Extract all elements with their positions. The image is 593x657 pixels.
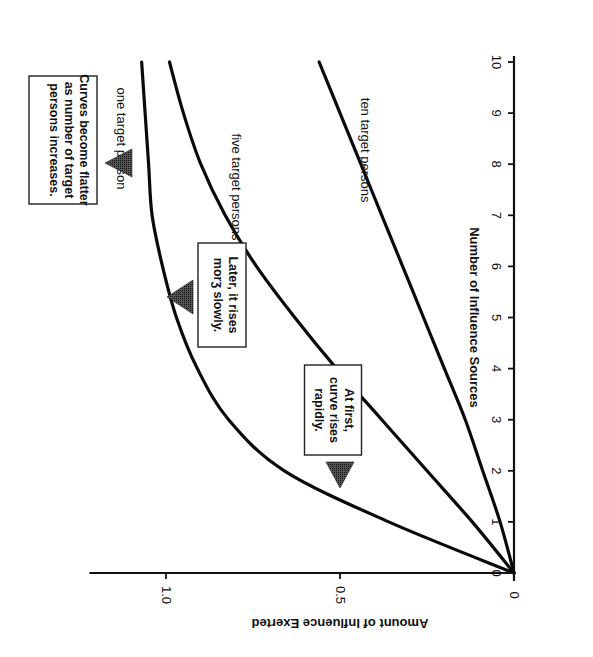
- chart-page: 012345678910 00.51.0 Number of Influence…: [0, 0, 593, 657]
- annotation-text: as number of target: [62, 82, 76, 200]
- x-tick-label: 6: [489, 263, 504, 270]
- annotation-text: persons increases.: [47, 83, 61, 196]
- x-tick-label: 10: [489, 55, 504, 69]
- annotations: At first,curve risesrapidly.Later, it ri…: [29, 74, 362, 488]
- x-tick-label: 3: [489, 416, 504, 423]
- y-axis-title: Amount of Influence Exerted: [251, 616, 428, 631]
- annotation-text: morʒ slowly.: [211, 258, 225, 332]
- annotation-text: curve rises: [327, 377, 341, 443]
- y-tick-label: 0.5: [333, 586, 348, 604]
- annotation-text: Later, it rises: [226, 256, 240, 333]
- pointer-triangle-icon: [167, 280, 193, 314]
- annotation-later: Later, it risesmorʒ slowly.: [167, 243, 246, 347]
- x-tick-label: 0: [489, 569, 504, 576]
- label-five-target-persons: five target persons: [229, 134, 244, 241]
- x-axis-title: Number of Influence Sources: [467, 227, 482, 408]
- x-tick-label: 9: [489, 109, 504, 116]
- annotation-text: At first,: [342, 388, 356, 432]
- axes: 012345678910 00.51.0 Number of Influence…: [89, 55, 522, 631]
- curve-ten-target-persons: [319, 62, 514, 573]
- x-tick-label: 8: [489, 161, 504, 168]
- annotation-text: Curves become flatter: [77, 74, 91, 205]
- annotation-at-first: At first,curve risesrapidly.: [305, 365, 362, 488]
- annotation-text: rapidly.: [312, 388, 326, 432]
- pointer-triangle-icon: [326, 462, 354, 488]
- x-tick-label: 2: [489, 467, 504, 474]
- influence-chart: 012345678910 00.51.0 Number of Influence…: [0, 0, 593, 657]
- x-tick-label: 4: [489, 365, 504, 372]
- label-ten-target-persons: ten target persons: [358, 98, 373, 203]
- y-tick-label: 1.0: [159, 586, 174, 604]
- y-axis-ticks: 00.51.0: [159, 573, 522, 604]
- x-tick-label: 7: [489, 212, 504, 219]
- x-tick-label: 5: [489, 314, 504, 321]
- y-tick-label: 0: [507, 591, 522, 598]
